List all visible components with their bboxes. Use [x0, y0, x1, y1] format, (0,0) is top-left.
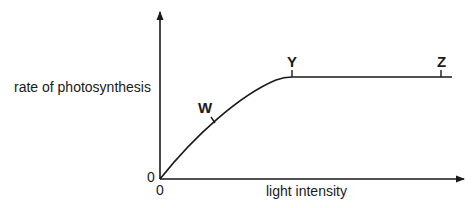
x-axis-label: light intensity — [266, 184, 347, 198]
graph-canvas — [0, 0, 474, 208]
point-w-label: W — [198, 100, 212, 115]
x-origin-label: 0 — [156, 183, 164, 197]
y-axis-label: rate of photosynthesis — [14, 80, 151, 94]
photosynthesis-curve — [160, 77, 452, 179]
point-y-label: Y — [287, 54, 297, 69]
point-z-label: Z — [437, 54, 446, 69]
y-origin-label: 0 — [147, 170, 155, 184]
